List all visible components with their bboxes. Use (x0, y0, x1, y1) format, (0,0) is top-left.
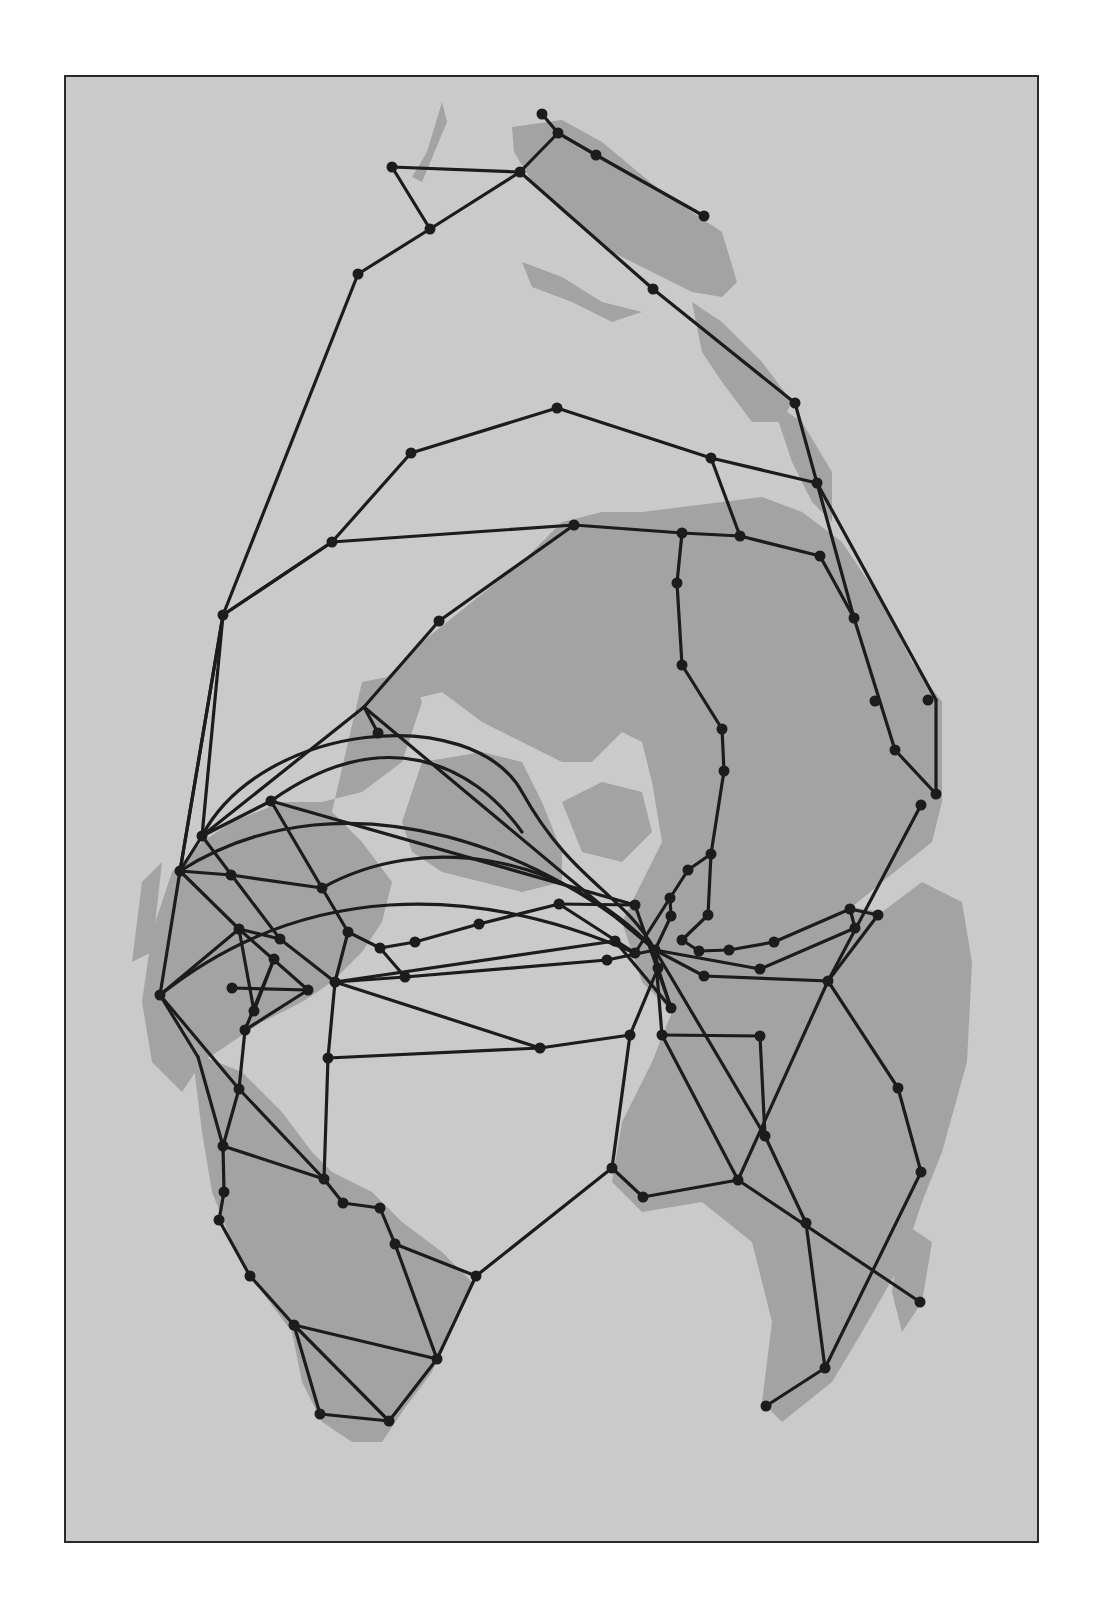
route-line (415, 924, 479, 942)
route-node (266, 796, 277, 807)
route-node (338, 1198, 349, 1209)
route-node (245, 1271, 256, 1282)
route-node (873, 910, 884, 921)
route-node (552, 403, 563, 414)
network-map (66, 77, 1039, 1543)
route-node (761, 1401, 772, 1412)
route-node (234, 1084, 245, 1095)
route-node (323, 1053, 334, 1064)
route-node (845, 904, 856, 915)
route-line (328, 1048, 540, 1058)
route-node (648, 284, 659, 295)
route-line (223, 542, 332, 615)
route-node (289, 1320, 300, 1331)
route-line (411, 408, 557, 453)
route-node (197, 831, 208, 842)
route-node (760, 1131, 771, 1142)
route-node (175, 866, 186, 877)
route-node (553, 128, 564, 139)
route-node (387, 162, 398, 173)
route-node (815, 551, 826, 562)
route-node (683, 865, 694, 876)
route-node (330, 977, 341, 988)
route-node (923, 695, 934, 706)
route-node (275, 934, 286, 945)
route-node (353, 269, 364, 280)
route-node (218, 610, 229, 621)
route-node (602, 955, 613, 966)
route-node (665, 893, 676, 904)
route-node (653, 963, 664, 974)
route-node (434, 616, 445, 627)
route-node (703, 910, 714, 921)
route-line (332, 525, 574, 542)
route-node (373, 728, 384, 739)
route-node (820, 1363, 831, 1374)
route-node (672, 578, 683, 589)
landmass (562, 782, 652, 862)
route-node (699, 971, 710, 982)
route-node (677, 935, 688, 946)
route-node (916, 1167, 927, 1178)
route-node (425, 224, 436, 235)
route-node (719, 766, 730, 777)
route-node (915, 1297, 926, 1308)
route-node (234, 924, 245, 935)
route-node (650, 945, 661, 956)
route-node (315, 1409, 326, 1420)
route-node (706, 849, 717, 860)
route-line (223, 274, 358, 615)
route-line (358, 229, 430, 274)
route-node (755, 1031, 766, 1042)
route-node (735, 531, 746, 542)
route-node (870, 696, 881, 707)
route-node (269, 954, 280, 965)
route-node (214, 1215, 225, 1226)
route-line (223, 1146, 224, 1192)
route-node (638, 1192, 649, 1203)
route-node (717, 724, 728, 735)
route-line (332, 453, 411, 542)
route-node (790, 398, 801, 409)
route-node (537, 109, 548, 120)
route-node (694, 946, 705, 957)
route-node (569, 520, 580, 531)
route-line (430, 172, 520, 229)
route-node (327, 537, 338, 548)
route-node (755, 964, 766, 975)
route-node (931, 789, 942, 800)
route-node (400, 972, 411, 983)
route-node (155, 990, 166, 1001)
route-node (343, 927, 354, 938)
route-node (890, 745, 901, 756)
route-node (317, 883, 328, 894)
route-node (850, 923, 861, 934)
route-node (849, 613, 860, 624)
route-node (384, 1416, 395, 1427)
route-node (226, 870, 237, 881)
route-node (219, 1187, 230, 1198)
route-node (319, 1174, 330, 1185)
route-line (722, 729, 724, 771)
route-line (324, 1058, 328, 1179)
route-node (410, 937, 421, 948)
route-node (724, 945, 735, 956)
route-line (335, 982, 540, 1048)
route-node (474, 919, 485, 930)
route-line (557, 408, 711, 458)
route-node (406, 448, 417, 459)
route-node (375, 943, 386, 954)
route-node (515, 167, 526, 178)
route-node (706, 453, 717, 464)
route-node (630, 948, 641, 959)
route-node (916, 800, 927, 811)
route-node (303, 985, 314, 996)
map-frame (64, 75, 1039, 1543)
route-node (801, 1218, 812, 1229)
route-node (823, 976, 834, 987)
route-node (733, 1175, 744, 1186)
route-node (893, 1083, 904, 1094)
route-node (591, 150, 602, 161)
route-node (240, 1025, 251, 1036)
route-node (625, 1030, 636, 1041)
